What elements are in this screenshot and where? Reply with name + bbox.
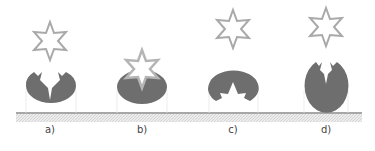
star-a [34,22,66,60]
label-d: d) [321,124,331,135]
star-d [310,8,342,46]
ground [16,113,362,122]
label-c: c) [228,124,237,135]
blob-d [305,62,349,113]
blob-a [26,72,76,103]
panel-d [305,8,349,113]
star-c [217,10,249,48]
diagram-canvas [0,0,375,151]
panel-c [208,10,259,101]
guide-lines [26,90,348,113]
blob-c [208,70,259,101]
label-b: b) [137,124,147,135]
panel-a [26,22,76,103]
label-a: a) [45,124,55,135]
panel-b [117,50,167,104]
